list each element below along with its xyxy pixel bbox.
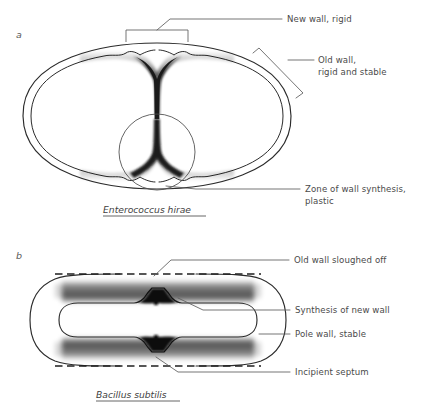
species-name-b: Bacillus subtilis bbox=[96, 389, 167, 400]
coccus-septum-lower bbox=[130, 119, 184, 178]
zone-label-line2: plastic bbox=[305, 196, 334, 206]
species-name-a: Enterococcus hirae bbox=[103, 204, 191, 215]
coccus-inner-wall-right bbox=[159, 50, 283, 182]
zone-label-line1: Zone of wall synthesis, bbox=[305, 184, 406, 194]
coccus-top-band bbox=[80, 51, 234, 82]
old-wall-label-line1: Old wall, bbox=[318, 55, 356, 65]
old-wall-bracket bbox=[253, 48, 303, 98]
new-wall-bracket bbox=[126, 30, 188, 42]
coccus-inner-wall-left bbox=[31, 50, 155, 182]
synthesis-of-new-wall-label: Synthesis of new wall bbox=[295, 305, 390, 315]
pole-wall-stable-label: Pole wall, stable bbox=[295, 329, 366, 339]
panel-b: b Old wall sloughed off Synthesis of new… bbox=[16, 250, 390, 401]
panel-a-label: a bbox=[16, 29, 22, 40]
old-wall-sloughed-off-leader bbox=[154, 260, 289, 276]
panel-a: a New wall, rigid Old wall, rigid and st… bbox=[16, 14, 406, 216]
old-wall-sloughed-off-label: Old wall sloughed off bbox=[294, 255, 387, 265]
incipient-septum-label: Incipient septum bbox=[295, 367, 369, 377]
coccus-septum-upper-core bbox=[136, 57, 178, 119]
panel-b-label: b bbox=[16, 250, 22, 261]
diagram-svg: a New wall, rigid Old wall, rigid and st… bbox=[0, 0, 445, 414]
new-wall-rigid-label: New wall, rigid bbox=[287, 14, 352, 24]
figure-canvas: a New wall, rigid Old wall, rigid and st… bbox=[0, 0, 445, 414]
new-wall-leader bbox=[157, 19, 282, 30]
old-wall-label-line2: rigid and stable bbox=[318, 67, 387, 77]
